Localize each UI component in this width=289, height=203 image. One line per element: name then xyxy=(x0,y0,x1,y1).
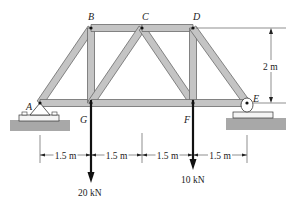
span-label: 1.5 m xyxy=(209,151,231,161)
node-label-b: B xyxy=(88,11,94,22)
node-label-c: C xyxy=(142,11,149,22)
member-bc xyxy=(91,25,142,32)
member-cd xyxy=(142,25,193,32)
node-label-f: F xyxy=(183,114,191,125)
pin-c xyxy=(140,26,143,29)
height-label: 2 m xyxy=(263,62,278,72)
span-dimensions: 1.5 m1.5 m1.5 m1.5 m xyxy=(40,133,247,163)
span-label: 1.5 m xyxy=(106,151,128,161)
node-label-e: E xyxy=(252,93,259,104)
ground-e xyxy=(226,118,286,130)
truss-diagram: A B C D E F G 2 m 1.5 m1.5 m1.5 m1.5 m 2… xyxy=(0,0,289,203)
pin-e xyxy=(245,101,248,104)
truss-members xyxy=(37,25,250,107)
span-label: 1.5 m xyxy=(157,151,179,161)
member-de xyxy=(190,26,250,105)
pin-b xyxy=(89,26,92,29)
support-base-e xyxy=(233,112,273,118)
arrow-head-right xyxy=(137,153,142,156)
load-f: 10 kN xyxy=(181,100,205,185)
bolt xyxy=(52,112,57,115)
ground-a xyxy=(10,120,70,131)
member-cf xyxy=(139,26,196,105)
member-cg xyxy=(88,26,145,105)
arrow-head-left xyxy=(142,153,147,156)
support-base-a xyxy=(19,115,59,121)
arrow-head-up xyxy=(269,28,273,34)
pin-support-a xyxy=(10,103,70,131)
member-bg xyxy=(88,28,95,103)
node-label-d: D xyxy=(192,11,201,22)
load-arrow-head xyxy=(190,159,197,170)
arrow-head-left xyxy=(40,153,45,156)
pin-a xyxy=(38,101,41,104)
member-fe xyxy=(193,100,247,107)
node-label-g: G xyxy=(80,114,87,125)
roller xyxy=(241,98,253,112)
load-label-g: 20 kN xyxy=(78,188,102,198)
member-ag xyxy=(40,100,91,107)
member-df xyxy=(190,28,197,103)
arrow-head-down xyxy=(269,97,273,103)
bolt xyxy=(22,112,27,115)
load-label-f: 10 kN xyxy=(181,175,205,185)
member-ab xyxy=(37,26,94,105)
span-label: 1.5 m xyxy=(55,151,77,161)
pin-d xyxy=(191,26,194,29)
arrow-head-right xyxy=(242,153,247,156)
load-arrow-head xyxy=(88,172,95,183)
member-gf xyxy=(91,100,193,107)
node-label-a: A xyxy=(25,101,33,112)
